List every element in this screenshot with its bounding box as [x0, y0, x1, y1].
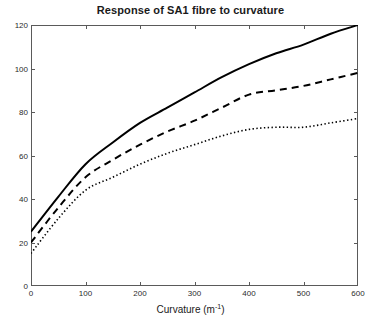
y-tick-label: 80 [2, 108, 28, 117]
x-tick-label: 200 [125, 289, 155, 298]
x-axis-label-text: Curvature (m [157, 304, 215, 315]
x-axis-label: Curvature (m-1) [0, 303, 381, 315]
x-tick-label: 600 [343, 289, 373, 298]
curves-svg [31, 25, 358, 286]
series-dotted-curve [31, 119, 358, 254]
y-tick-label: 100 [2, 64, 28, 73]
y-tick-label: 60 [2, 151, 28, 160]
y-tick-label: 120 [2, 21, 28, 30]
x-tick-label: 0 [16, 289, 46, 298]
x-tick-label: 300 [180, 289, 210, 298]
y-tick-label: 40 [2, 195, 28, 204]
x-axis-label-suffix: ) [221, 304, 224, 315]
series-solid-curve [31, 25, 358, 232]
x-tick-label: 100 [71, 289, 101, 298]
curves-layer [31, 25, 358, 286]
chart-figure: Response of SA1 fibre to curvature 120 1… [0, 0, 381, 330]
x-tick-label: 400 [234, 289, 264, 298]
x-tick-label: 500 [289, 289, 319, 298]
chart-title: Response of SA1 fibre to curvature [0, 4, 381, 16]
series-dashed-curve [31, 73, 358, 243]
y-tick-label: 20 [2, 238, 28, 247]
